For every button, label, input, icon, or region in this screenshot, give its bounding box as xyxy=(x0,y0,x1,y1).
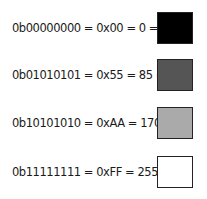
color-swatch xyxy=(157,59,193,91)
grayscale-row-0: 0b00000000 = 0x00 = 0 = xyxy=(0,12,207,46)
grayscale-row-3: 0b11111111 = 0xFF = 255 = xyxy=(0,156,207,190)
value-label: 0b01010101 = 0x55 = 85 = xyxy=(12,68,165,82)
color-swatch xyxy=(157,156,193,188)
color-swatch xyxy=(157,12,193,44)
grayscale-row-1: 0b01010101 = 0x55 = 85 = xyxy=(0,59,207,93)
value-label: 0b00000000 = 0x00 = 0 = xyxy=(12,21,158,35)
grayscale-row-2: 0b10101010 = 0xAA = 170 = xyxy=(0,107,207,141)
color-swatch xyxy=(157,107,193,139)
value-label: 0b11111111 = 0xFF = 255 = xyxy=(12,165,170,179)
value-label: 0b10101010 = 0xAA = 170 = xyxy=(12,116,173,130)
